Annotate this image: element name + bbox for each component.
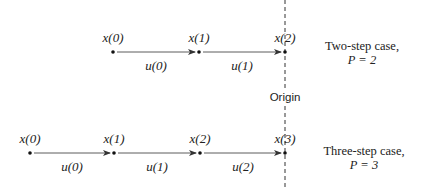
origin-label: Origin bbox=[270, 91, 301, 103]
state-node bbox=[283, 50, 287, 54]
two-step-p-value: P = 2 bbox=[347, 53, 376, 67]
state-label: x(3) bbox=[274, 131, 296, 146]
control-label: u(2) bbox=[232, 159, 254, 174]
state-node bbox=[197, 50, 201, 54]
state-node bbox=[198, 151, 202, 155]
three-step-p-value: P = 3 bbox=[349, 158, 378, 172]
state-label: x(0) bbox=[19, 131, 41, 146]
state-label: x(1) bbox=[103, 131, 125, 146]
control-steps-diagram: Origin x(0) x(1) x(2) u(0) u(1) Two-step… bbox=[0, 0, 422, 190]
state-node bbox=[283, 151, 287, 155]
state-node bbox=[112, 151, 116, 155]
state-node bbox=[28, 151, 32, 155]
state-label: x(1) bbox=[188, 30, 210, 45]
control-label: u(1) bbox=[146, 159, 168, 174]
two-step-row: x(0) x(1) x(2) u(0) u(1) Two-step case, … bbox=[102, 30, 400, 73]
state-label: x(0) bbox=[102, 30, 124, 45]
state-label: x(2) bbox=[189, 131, 211, 146]
two-step-caption: Two-step case, bbox=[325, 39, 399, 53]
state-node bbox=[111, 50, 115, 54]
three-step-caption: Three-step case, bbox=[323, 144, 404, 158]
control-label: u(0) bbox=[61, 159, 83, 174]
control-label: u(1) bbox=[231, 58, 253, 73]
three-step-row: x(0) x(1) x(2) x(3) u(0) u(1) u(2) Three… bbox=[19, 131, 405, 174]
state-label: x(2) bbox=[274, 30, 296, 45]
control-label: u(0) bbox=[145, 58, 167, 73]
